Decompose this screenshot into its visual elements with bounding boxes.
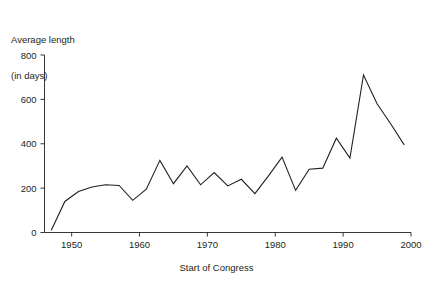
chart-container: Average length (in days) 0200400600800 1… [0,0,433,295]
y-tick-label: 600 [21,94,37,105]
x-tick-label: 1960 [129,239,150,250]
y-tick-label: 800 [21,50,37,61]
line-chart-plot: 0200400600800 195019601970198019902000 [0,0,433,295]
y-tick-label: 0 [31,227,36,238]
y-tick-label: 400 [21,138,37,149]
x-tick-label: 1970 [197,239,218,250]
x-tick-label: 1950 [61,239,82,250]
y-axis-ticks: 0200400600800 [21,50,45,239]
data-series-line [51,75,404,230]
x-tick-label: 2000 [400,239,421,250]
y-tick-label: 200 [21,183,37,194]
x-tick-label: 1980 [265,239,286,250]
x-axis-title: Start of Congress [0,262,433,274]
x-axis-ticks: 195019601970198019902000 [61,233,421,250]
x-tick-label: 1990 [333,239,354,250]
